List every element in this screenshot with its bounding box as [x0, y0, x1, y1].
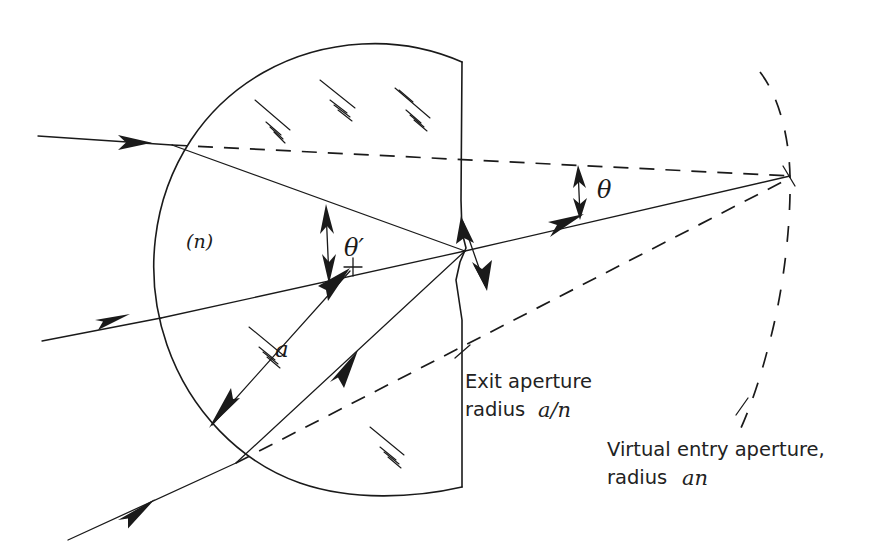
virtual-entry-leader — [736, 398, 748, 415]
theta-prime-arrow — [320, 204, 336, 284]
figure-root: (n) a θ′ θ Exit aperture radius a/n Virt… — [0, 0, 887, 555]
radius-label: a — [275, 336, 289, 362]
virtual-entry-label-line1: Virtual entry aperture, — [607, 438, 825, 461]
exit-aperture-radius-word: radius — [465, 398, 525, 421]
hatch-mark — [255, 100, 290, 143]
lens-body — [154, 44, 466, 496]
ray-top — [38, 135, 465, 251]
dashed-arc — [741, 72, 790, 428]
medium-index-label: (n) — [186, 230, 213, 252]
arrowhead — [118, 135, 152, 150]
virtual-entry-aperture-arc — [741, 72, 790, 428]
hatch-mark — [370, 427, 404, 468]
theta-prime-label: θ′ — [344, 234, 364, 262]
arrowhead — [330, 350, 358, 388]
arrowhead — [472, 260, 492, 291]
arrowhead — [456, 216, 474, 244]
virtual-entry-radius-word: radius — [607, 466, 667, 489]
optics-diagram: (n) a θ′ θ Exit aperture radius a/n Virt… — [0, 0, 887, 555]
arrowhead — [573, 165, 586, 188]
lens-curved-surface — [154, 44, 462, 496]
arrowhead — [548, 214, 584, 237]
hatch-mark — [320, 80, 355, 121]
exit-aperture-label-line2: radius a/n — [465, 398, 571, 422]
arrowhead — [118, 499, 155, 529]
arrowhead — [209, 388, 240, 428]
virtual-entry-radius-value: an — [682, 466, 708, 490]
dashed-line-upper — [172, 145, 790, 176]
lens-flat-face — [456, 62, 466, 487]
theta-label: θ — [597, 176, 612, 204]
ray-exit — [465, 176, 790, 251]
hatch-mark — [395, 88, 430, 131]
exit-aperture-radius-value: a/n — [538, 398, 571, 422]
arrowhead — [318, 268, 350, 301]
exit-aperture-label-line1: Exit aperture — [465, 370, 592, 393]
virtual-entry-label-line2: radius an — [607, 466, 708, 490]
ray-middle — [42, 251, 465, 341]
theta-arrow — [573, 165, 587, 220]
hatch-mark — [399, 90, 413, 102]
